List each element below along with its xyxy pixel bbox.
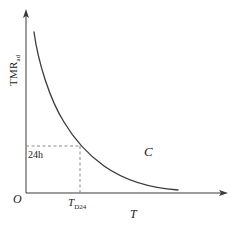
figure-container: TMRad T O TD24 24h C [0,0,248,233]
origin-label: O [13,193,22,205]
x-axis-label: T [130,208,137,220]
y-axis-tick-label-24h: 24h [28,150,43,160]
chart-canvas [0,0,248,233]
x-tick-subscript: D24 [74,203,86,211]
curve-name-label: C [144,145,153,158]
y-axis-label-subscript: ad [14,55,22,62]
y-axis-label: TMRad [8,55,22,86]
y-axis-label-main: TMR [7,62,19,86]
x-axis-tick-label-td24: TD24 [68,197,86,211]
decay-curve [34,32,178,190]
